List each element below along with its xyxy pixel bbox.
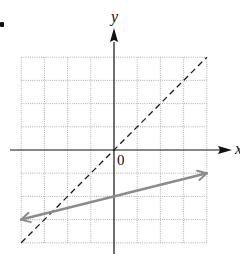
y-axis-arrow-icon [110,28,118,42]
y-axis-label: y [111,8,118,26]
x-axis-arrow-icon [218,146,232,154]
x-axis-label: x [235,140,240,158]
coordinate-plane [0,0,240,254]
list-bullet [0,22,4,27]
origin-label: 0 [117,152,125,169]
